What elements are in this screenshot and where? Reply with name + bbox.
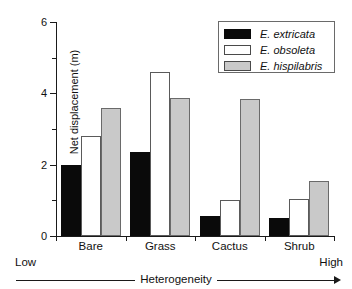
- bar: [240, 99, 260, 236]
- bar: [200, 216, 220, 236]
- bar: [130, 152, 150, 236]
- x-tick: [56, 236, 57, 241]
- legend-label: E. obsoleta: [260, 44, 315, 56]
- heterogeneity-title: Heterogeneity: [0, 273, 352, 285]
- bar: [289, 199, 309, 236]
- category-label: Cactus: [212, 240, 248, 252]
- legend: E. extricataE. obsoletaE. hispilabris: [218, 21, 335, 73]
- heterogeneity-axis: Low High Heterogeneity: [0, 256, 352, 289]
- legend-item: E. hispilabris: [224, 58, 329, 73]
- bar: [150, 72, 170, 236]
- legend-item: E. obsoleta: [224, 42, 329, 57]
- bar: [309, 181, 329, 236]
- x-tick: [334, 236, 335, 241]
- black-swatch: [224, 29, 251, 39]
- bar: [61, 165, 81, 236]
- x-tick: [195, 236, 196, 241]
- legend-label: E. extricata: [260, 28, 315, 40]
- category-label: Bare: [79, 240, 103, 252]
- y-tick-label: 4: [41, 88, 47, 99]
- white-swatch: [224, 45, 251, 55]
- x-tick: [126, 236, 127, 241]
- y-axis-ticks: 0246: [0, 0, 56, 238]
- y-tick-label: 2: [41, 159, 47, 170]
- bar: [101, 108, 121, 236]
- figure-root: Net displacement (m) 0246 BareGrassCactu…: [0, 0, 352, 289]
- category-label: Shrub: [284, 240, 315, 252]
- legend-item: E. extricata: [224, 26, 329, 41]
- y-tick-label: 0: [41, 231, 47, 242]
- gray-swatch: [224, 61, 251, 71]
- category-label: Grass: [145, 240, 176, 252]
- bar: [269, 218, 289, 236]
- heterogeneity-low-label: Low: [15, 256, 36, 268]
- bar: [220, 200, 240, 236]
- bar: [170, 98, 190, 236]
- y-tick-label: 6: [41, 17, 47, 28]
- legend-label: E. hispilabris: [260, 60, 322, 72]
- x-tick: [265, 236, 266, 241]
- heterogeneity-high-label: High: [319, 256, 343, 268]
- heterogeneity-title-text: Heterogeneity: [135, 273, 217, 285]
- bar: [81, 136, 101, 236]
